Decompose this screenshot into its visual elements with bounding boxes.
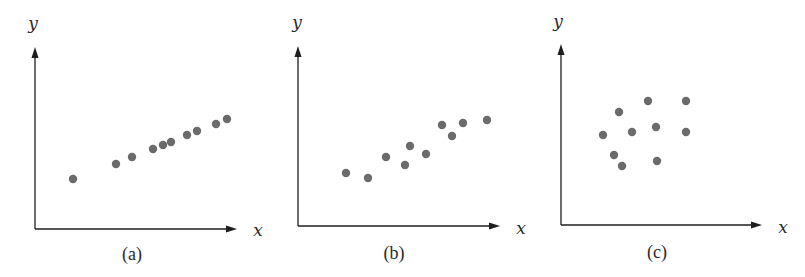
y-axis-arrow-icon <box>558 44 565 55</box>
y-axis-label: y <box>552 11 563 31</box>
data-point <box>599 131 607 139</box>
data-point <box>618 162 626 170</box>
scatter-panel-c: yx(c) <box>552 11 788 263</box>
data-point <box>422 150 430 158</box>
y-axis-arrow-icon <box>32 47 39 58</box>
data-point <box>682 128 690 136</box>
scatter-panel-a: yx(a) <box>27 13 263 265</box>
data-point <box>69 175 77 183</box>
x-axis-arrow-icon <box>226 226 237 233</box>
x-axis-label: x <box>778 217 788 237</box>
data-point <box>682 97 690 105</box>
x-axis-label: x <box>516 218 526 238</box>
panel-label-b: (b) <box>384 243 405 264</box>
y-axis-label: y <box>27 13 38 33</box>
data-point <box>364 174 372 182</box>
x-axis-label: x <box>253 220 263 240</box>
data-point <box>112 160 120 168</box>
y-axis-label: y <box>291 12 302 32</box>
data-point <box>382 153 390 161</box>
data-point <box>183 131 191 139</box>
data-point <box>483 116 491 124</box>
x-axis-arrow-icon <box>489 223 500 230</box>
data-point <box>149 145 157 153</box>
data-point <box>223 115 231 123</box>
panel-label-a: (a) <box>122 244 142 265</box>
x-axis-arrow-icon <box>751 222 762 229</box>
data-point <box>159 141 167 149</box>
data-point <box>128 153 136 161</box>
data-point <box>406 142 414 150</box>
panel-label-c: (c) <box>647 242 667 263</box>
scatter-figure: yx(a) yx(b) yx(c) <box>0 0 805 277</box>
data-point <box>628 128 636 136</box>
data-point <box>459 119 467 127</box>
data-point <box>448 132 456 140</box>
data-point <box>167 138 175 146</box>
data-point <box>615 108 623 116</box>
scatter-panel-b: yx(b) <box>291 12 526 264</box>
y-axis-arrow-icon <box>295 46 302 57</box>
data-point <box>193 127 201 135</box>
data-point <box>653 157 661 165</box>
data-point <box>610 151 618 159</box>
data-point <box>342 169 350 177</box>
data-point <box>212 120 220 128</box>
data-point <box>644 97 652 105</box>
data-point <box>438 121 446 129</box>
data-point <box>401 161 409 169</box>
data-point <box>652 123 660 131</box>
